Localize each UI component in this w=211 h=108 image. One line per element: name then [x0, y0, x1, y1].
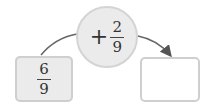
start-fraction: 6 9: [37, 62, 51, 97]
plus-sign: +: [90, 26, 108, 48]
start-denominator: 9: [39, 82, 49, 97]
start-value-box: 6 9: [15, 56, 73, 102]
operation-fraction: 2 9: [110, 20, 124, 55]
left-connector: [41, 34, 77, 55]
result-answer-box[interactable]: [140, 57, 200, 102]
operation-denominator: 9: [112, 40, 122, 55]
start-numerator: 6: [39, 62, 49, 77]
operation-circle: + 2 9: [76, 6, 138, 68]
right-arrow: [138, 36, 170, 55]
operation-numerator: 2: [112, 20, 122, 35]
